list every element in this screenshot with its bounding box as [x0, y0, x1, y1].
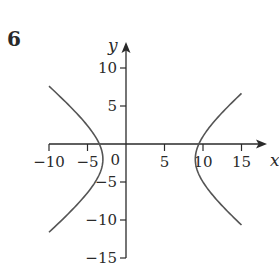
y-tick-label: −15 — [85, 249, 117, 266]
x-tick-label: 5 — [160, 153, 170, 171]
y-tick-label: 5 — [107, 97, 117, 115]
x-tick-label: −5 — [76, 153, 98, 171]
origin-label: 0 — [110, 151, 120, 169]
x-tick-label: 15 — [232, 153, 251, 171]
x-tick-label: −10 — [33, 153, 65, 171]
y-axis-label: y — [107, 35, 118, 55]
x-axis-label: x — [270, 150, 279, 170]
hyperbola-plot: −10−551015105−5−10−150xy — [0, 0, 279, 266]
y-tick-label: 10 — [98, 59, 117, 77]
y-tick-label: −10 — [85, 211, 117, 229]
